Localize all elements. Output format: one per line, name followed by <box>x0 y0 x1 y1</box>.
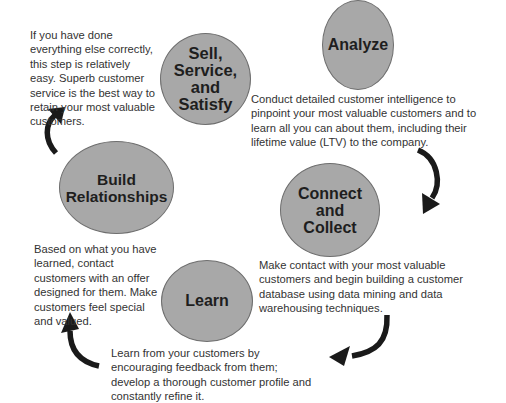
description-learn: Learn from your customers by encouraging… <box>111 346 319 403</box>
curved-arrow-down-icon <box>418 150 440 214</box>
node-label-learn: Learn <box>185 293 229 309</box>
node-label-sell: Sell, Service, and Satisfy <box>174 45 237 113</box>
crm-cycle-diagram: Sell, Service, and Satisfy If you have d… <box>0 0 506 403</box>
node-label-build: Build Relationships <box>66 171 168 205</box>
description-connect: Make contact with your most valuable cus… <box>259 258 499 316</box>
node-learn: Learn <box>161 260 253 342</box>
node-sell-service-satisfy: Sell, Service, and Satisfy <box>160 33 251 125</box>
curved-arrow-left-icon <box>329 315 387 366</box>
node-label-connect: Connect and Collect <box>298 185 362 236</box>
description-sell: If you have done everything else correct… <box>30 28 158 129</box>
node-connect-collect: Connect and Collect <box>280 163 380 257</box>
node-analyze: Analyze <box>322 0 394 90</box>
node-build-relationships: Build Relationships <box>59 141 174 234</box>
node-label-analyze: Analyze <box>328 37 388 53</box>
description-build: Based on what you have learned, contact … <box>34 242 162 328</box>
description-analyze: Conduct detailed customer intelligence t… <box>251 92 483 150</box>
